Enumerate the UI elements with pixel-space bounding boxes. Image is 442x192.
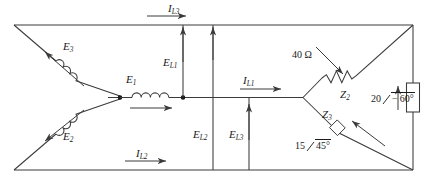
label-il2: IL2 (136, 147, 147, 161)
label-z2-phasor: 20 − 60° (371, 93, 415, 104)
label-el2: EL2 (193, 128, 207, 142)
angle-symbol-icon (306, 141, 315, 152)
load-branch-z1-lower (303, 78, 322, 98)
resistor-z1 (322, 71, 356, 83)
source-branch-e2-upper (76, 99, 120, 114)
label-el3: EL3 (229, 128, 243, 142)
label-z3-phasor: 15 45° (295, 140, 331, 151)
label-e1: E1 (126, 73, 136, 87)
coil-e1 (132, 93, 169, 98)
circuit-diagram: IL3 IL2 IL1 EL1 EL2 EL3 E1 E2 E3 40 Ω Z2… (0, 0, 442, 192)
source-branch-e2-lower (14, 134, 56, 170)
label-z2: Z2 (340, 88, 350, 102)
label-e3: E3 (63, 40, 73, 54)
source-branch-e3-lower (76, 81, 120, 96)
label-e2: E2 (63, 130, 73, 144)
label-z3: Z3 (322, 108, 332, 122)
label-il1: IL1 (243, 74, 254, 88)
impedance-z3-block (330, 120, 346, 136)
label-il3: IL3 (168, 2, 179, 16)
arrow-z1 (316, 47, 343, 74)
arrow-e3 (45, 52, 84, 86)
load-branch-z1-upper (356, 25, 413, 76)
label-el1: EL1 (163, 56, 177, 70)
angle-symbol-icon (382, 94, 391, 105)
label-z1-value: 40 Ω (292, 49, 312, 60)
load-branch-z3-lower (339, 133, 413, 170)
